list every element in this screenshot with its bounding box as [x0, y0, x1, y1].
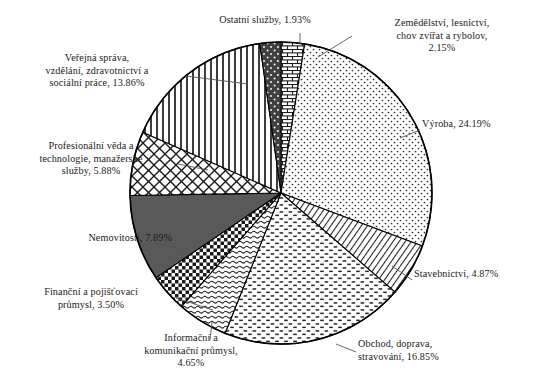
pie-label-ostatni-sluzby: Ostatní služby, 1.93%: [200, 14, 330, 27]
pie-label-financni: Finanční a pojišťovací průmysl, 3.50%: [8, 286, 174, 311]
pie-label-stavebnictvi: Stavebnictví, 4.87%: [414, 268, 534, 281]
pie-label-profesionalni: Profesionální věda a technologie, manaže…: [6, 140, 176, 178]
pie-label-nemovitosti: Nemovitosti, 7.89%: [10, 232, 172, 245]
pie-label-verejna-sprava: Veřejná správa, vzdělání, zdravotnictví …: [4, 52, 190, 90]
pie-label-vyroba: Výroba, 24.19%: [422, 118, 534, 131]
pie-label-informacni: Informační a komunikační průmysl, 4.65%: [108, 332, 274, 370]
pie-label-obchod: Obchod, doprava, stravování, 16.85%: [358, 338, 530, 363]
pie-label-zemedelstvi: Zemědělství, lesnictví, chov zvířat a ry…: [354, 17, 530, 55]
pie-chart: Ostatní služby, 1.93% Zemědělství, lesni…: [0, 0, 536, 388]
leader-obchod: [336, 344, 356, 352]
